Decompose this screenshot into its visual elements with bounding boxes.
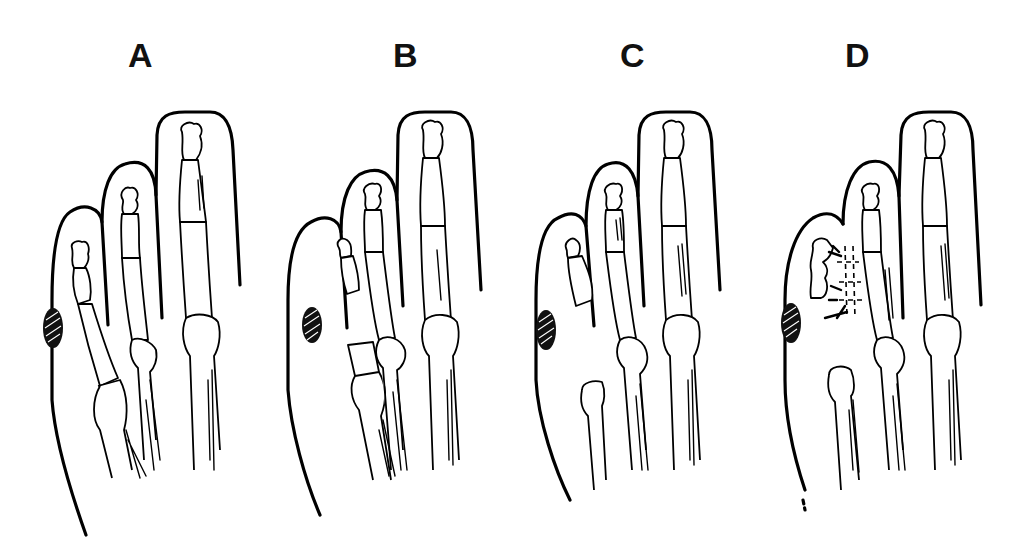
suture-lines <box>825 246 863 318</box>
panel-d: D <box>765 0 1015 560</box>
toe-illustration-d <box>765 0 1015 560</box>
lesion-icon-c <box>536 310 556 350</box>
toe-illustration-c <box>510 0 760 560</box>
toe-illustration-b <box>255 0 505 560</box>
lesion-icon-d <box>781 303 801 343</box>
panel-c: C <box>510 0 760 560</box>
lesion-icon-b <box>302 307 322 343</box>
toe-illustration-a <box>0 0 250 560</box>
lesion-icon-a <box>43 308 63 348</box>
panel-b: B <box>255 0 505 560</box>
panel-a: A <box>0 0 250 560</box>
